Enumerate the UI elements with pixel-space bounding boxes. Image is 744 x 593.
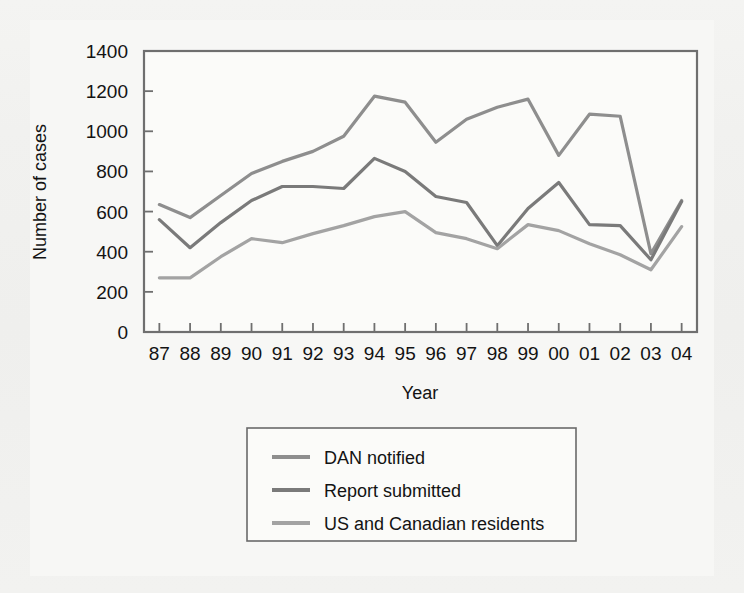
x-tick-label: 96	[425, 343, 446, 364]
x-tick-label: 03	[640, 343, 661, 364]
x-tick-label: 00	[548, 343, 569, 364]
x-tick-label: 99	[517, 343, 538, 364]
x-tick-label: 89	[210, 343, 231, 364]
x-tick-label: 88	[180, 343, 201, 364]
legend-label-2: US and Canadian residents	[324, 514, 544, 534]
chart-legend: DAN notifiedReport submittedUS and Canad…	[247, 428, 576, 541]
legend-label-1: Report submitted	[324, 481, 461, 501]
y-tick-label: 1200	[86, 81, 128, 102]
chart-svg: 0200400600800100012001400 87888990919293…	[0, 0, 744, 593]
x-tick-label: 02	[610, 343, 631, 364]
x-tick-label: 94	[364, 343, 386, 364]
x-tick-label: 04	[671, 343, 693, 364]
legend-label-0: DAN notified	[324, 448, 425, 468]
x-tick-label: 91	[272, 343, 293, 364]
x-tick-label: 97	[456, 343, 477, 364]
y-tick-label: 1000	[86, 121, 128, 142]
x-tick-label: 01	[579, 343, 600, 364]
x-tick-label: 92	[302, 343, 323, 364]
y-tick-label: 400	[96, 242, 128, 263]
x-tick-label: 87	[149, 343, 170, 364]
line-chart-figure: 0200400600800100012001400 87888990919293…	[0, 0, 744, 593]
y-tick-label: 800	[96, 161, 128, 182]
y-tick-label: 0	[117, 322, 128, 343]
y-axis-title: Number of cases	[30, 124, 50, 260]
x-tick-label: 90	[241, 343, 262, 364]
y-tick-label: 1400	[86, 41, 128, 62]
x-axis-title: Year	[402, 383, 438, 403]
y-tick-label: 600	[96, 202, 128, 223]
x-tick-label: 95	[395, 343, 416, 364]
y-tick-label: 200	[96, 282, 128, 303]
x-tick-label: 93	[333, 343, 354, 364]
x-tick-label: 98	[487, 343, 508, 364]
